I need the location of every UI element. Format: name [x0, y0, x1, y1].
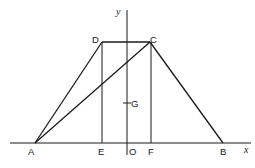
point-A-label: A	[28, 146, 35, 157]
trapezium-diagram: y x D C G A E O F B	[0, 0, 255, 168]
origin-O-label: O	[129, 146, 136, 157]
point-G-label: G	[131, 98, 138, 109]
point-B-label: B	[220, 146, 226, 157]
point-E-label: E	[98, 146, 104, 157]
x-axis-label: x	[243, 144, 249, 155]
y-axis-label: y	[115, 6, 121, 17]
point-D-label: D	[92, 34, 99, 45]
point-F-label: F	[148, 146, 154, 157]
point-C-label: C	[150, 34, 157, 45]
side-CB	[150, 42, 223, 143]
